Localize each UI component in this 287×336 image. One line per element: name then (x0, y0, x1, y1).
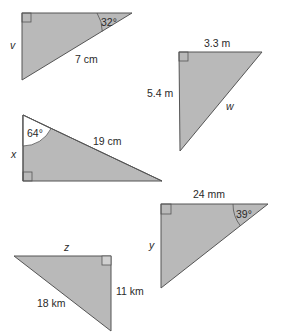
triangle-2-shape (179, 52, 262, 151)
vertical-side-label: 11 km (116, 285, 144, 297)
hypotenuse-label: 18 km (37, 297, 66, 309)
side-label-v: v (10, 39, 16, 51)
hypotenuse-label: 7 cm (75, 53, 98, 65)
right-angle-marker (102, 256, 111, 265)
angle-label: 39° (236, 208, 252, 220)
side-label-w: w (226, 100, 235, 112)
triangle-4: 39° 24 mm y (148, 188, 268, 288)
side-label-z: z (63, 241, 70, 253)
top-side-label: 3.3 m (204, 37, 231, 49)
side-label-y: y (148, 239, 155, 251)
triangle-5: z 11 km 18 km (14, 241, 144, 331)
triangle-1: 32° v 7 cm (10, 13, 132, 80)
angle-label: 32° (101, 16, 117, 28)
top-side-label: 24 mm (193, 188, 225, 200)
vertical-side-label: 5.4 m (147, 87, 174, 99)
right-triangles-diagram: 32° v 7 cm 3.3 m 5.4 m w 64° x 19 cm 39°… (0, 0, 287, 336)
hypotenuse-label: 19 cm (93, 135, 122, 147)
triangle-5-shape (14, 256, 111, 331)
triangle-4-shape (161, 204, 268, 288)
triangle-2: 3.3 m 5.4 m w (147, 37, 262, 151)
side-label-x: x (10, 148, 17, 160)
angle-label: 64° (27, 127, 43, 139)
triangle-3: 64° x 19 cm (10, 115, 162, 181)
